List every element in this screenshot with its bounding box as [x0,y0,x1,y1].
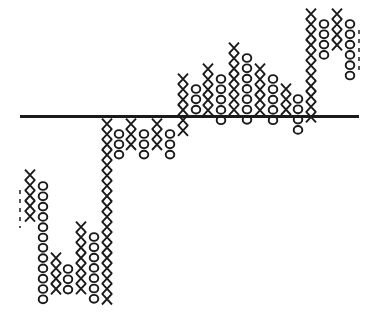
x-mark [102,222,112,233]
o-mark [39,182,48,190]
o-mark [39,254,48,262]
x-mark [332,40,342,51]
x-mark [51,253,61,264]
x-mark [102,201,112,212]
o-mark [64,265,73,273]
o-mark [217,106,226,114]
x-mark [102,294,112,305]
x-mark [306,40,316,51]
x-mark [332,29,342,40]
x-mark [25,170,35,181]
x-mark [102,242,112,253]
x-mark [51,273,61,284]
x-mark [102,150,112,161]
x-mark [76,222,86,233]
o-mark [39,213,48,221]
o-mark [269,96,278,104]
column-17-x [229,43,239,116]
x-mark [306,50,316,61]
x-mark [76,273,86,284]
o-mark [346,20,355,28]
o-mark [320,30,329,38]
x-mark [76,232,86,243]
x-mark [51,263,61,274]
x-mark [306,60,316,71]
x-mark [203,74,213,85]
x-mark [152,119,162,130]
x-mark [255,74,265,85]
x-mark [76,283,86,294]
x-mark [306,9,316,20]
column-9-x [126,119,136,150]
x-mark [102,129,112,140]
column-26-o [346,20,355,79]
column-23-x [306,9,316,123]
column-2-o [39,182,48,303]
o-mark [115,140,124,148]
x-mark [306,101,316,112]
x-mark [178,125,188,136]
point-and-figure-chart [0,0,376,328]
o-mark [90,274,99,282]
o-mark [243,64,252,72]
o-mark [243,54,252,62]
o-mark [192,95,201,103]
column-11-x [152,119,162,150]
x-mark [102,283,112,294]
column-25-x [332,9,342,51]
o-mark [39,265,48,273]
reference-line [20,115,359,118]
o-mark [243,85,252,93]
x-mark [126,129,136,140]
o-mark [64,275,73,283]
o-mark [346,41,355,49]
o-mark [243,106,252,114]
o-mark [39,275,48,283]
pf-symbols [0,0,376,328]
column-7-x [102,119,112,305]
x-mark [102,180,112,191]
o-mark [192,106,201,114]
o-mark [39,203,48,211]
x-mark [203,105,213,116]
x-mark [102,170,112,181]
x-mark [102,191,112,202]
o-mark [320,51,329,59]
o-mark [115,151,124,159]
column-24-o [320,20,329,59]
column-15-x [203,64,213,116]
o-mark [90,243,99,251]
o-mark [243,75,252,83]
column-14-o [192,85,201,113]
x-mark [102,160,112,171]
column-18-o [243,54,252,124]
o-mark [166,151,175,159]
o-mark [90,285,99,293]
o-mark [90,233,99,241]
x-mark [76,263,86,274]
x-mark [332,19,342,30]
o-mark [140,130,149,138]
o-mark [90,254,99,262]
x-mark [255,105,265,116]
x-mark [25,180,35,191]
o-mark [39,244,48,252]
x-mark [229,63,239,74]
x-mark [178,84,188,95]
o-mark [192,85,201,93]
x-mark [102,273,112,284]
o-mark [217,96,226,104]
x-mark [102,232,112,243]
column-6-o [90,233,99,303]
o-mark [64,286,73,294]
o-mark [166,140,175,148]
x-mark [102,139,112,150]
o-mark [346,51,355,59]
o-mark [140,140,149,148]
o-mark [320,41,329,49]
o-mark [243,95,252,103]
x-mark [25,190,35,201]
x-mark [255,64,265,75]
x-mark [203,84,213,95]
x-mark [281,94,291,105]
